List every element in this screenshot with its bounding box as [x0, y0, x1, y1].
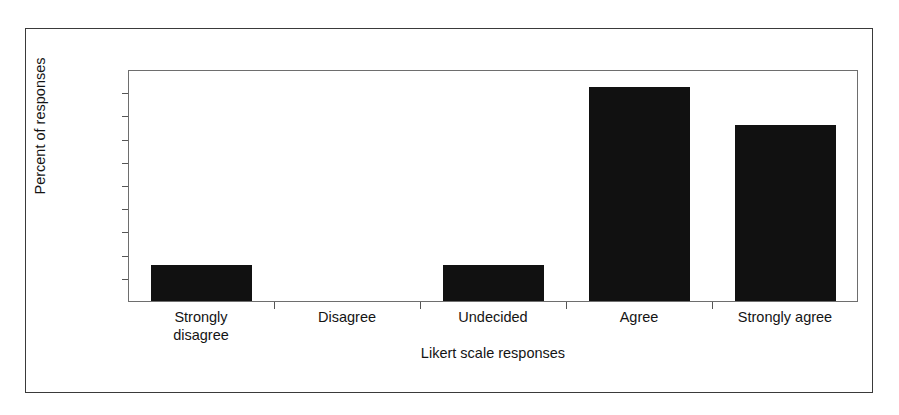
bar	[735, 125, 836, 301]
x-axis-category-label: Stronglydisagree	[118, 308, 284, 344]
figure-container: Percent of responses 50.045.040.035.030.…	[0, 0, 899, 415]
plot-area	[128, 70, 858, 302]
x-axis-category-label-line: disagree	[118, 326, 284, 344]
bar	[443, 265, 544, 301]
x-axis-category-label-line: Strongly	[118, 308, 284, 326]
x-axis-category-label: Undecided	[410, 308, 576, 326]
x-axis-category-label-line: Undecided	[410, 308, 576, 326]
y-axis-tick-marks	[0, 0, 128, 415]
x-axis-category-label-line: Disagree	[264, 308, 430, 326]
x-axis-category-label-line: Strongly agree	[702, 308, 868, 326]
bar	[151, 265, 252, 301]
x-axis-category-label: Disagree	[264, 308, 430, 326]
x-axis-category-label-line: Agree	[556, 308, 722, 326]
x-axis-category-label: Strongly agree	[702, 308, 868, 326]
x-axis-category-label: Agree	[556, 308, 722, 326]
x-axis-title: Likert scale responses	[128, 345, 858, 361]
bar	[589, 87, 690, 301]
